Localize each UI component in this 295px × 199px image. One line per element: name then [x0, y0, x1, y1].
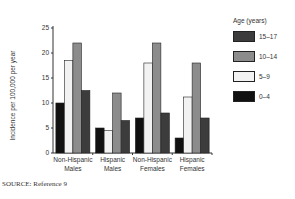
bar: [161, 113, 170, 153]
bar: [192, 63, 201, 153]
bar: [56, 103, 65, 153]
bar: [121, 121, 130, 154]
bar: [96, 128, 105, 153]
legend-swatch: [233, 91, 255, 102]
legend-item: 15–17: [233, 30, 277, 42]
legend-item: 10–14: [233, 50, 277, 62]
y-tick-label: 15: [39, 74, 49, 81]
bar: [104, 131, 113, 154]
legend-swatch: [233, 31, 255, 42]
y-tick-label: 20: [39, 49, 49, 56]
bar: [175, 138, 184, 153]
legend-label: 15–17: [259, 33, 277, 40]
y-tick-label: 5: [39, 124, 49, 131]
bar: [113, 93, 122, 153]
bar: [152, 43, 161, 153]
bar: [64, 61, 73, 154]
source-note: SOURCE: Reference 9: [2, 180, 67, 188]
y-tick-label: 25: [39, 24, 49, 31]
bar: [184, 97, 193, 153]
legend-label: 10–14: [259, 53, 277, 60]
y-axis-label: Incidence per 100,000 per year: [9, 46, 16, 146]
legend-label: 5–9: [259, 73, 270, 80]
x-category-label: HispanicFemales: [167, 155, 217, 173]
legend-swatch: [233, 71, 255, 82]
bar: [201, 118, 210, 153]
chart: Incidence per 100,000 per year 051015202…: [0, 0, 295, 199]
legend-item: 0–4: [233, 90, 270, 102]
legend-label: 0–4: [259, 93, 270, 100]
y-tick-label: 10: [39, 99, 49, 106]
bar: [144, 63, 153, 153]
bar: [81, 91, 90, 154]
legend-item: 5–9: [233, 70, 270, 82]
legend-title: Age (years): [233, 17, 267, 24]
legend-swatch: [233, 51, 255, 62]
bar: [73, 43, 82, 153]
bar: [135, 118, 144, 153]
